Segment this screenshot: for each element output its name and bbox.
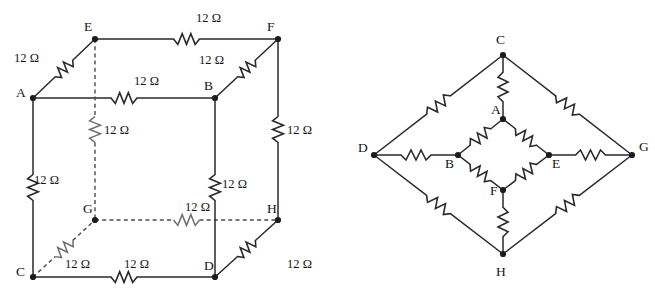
node-label-G: G bbox=[83, 201, 93, 216]
resistor-symbol bbox=[174, 215, 200, 226]
node-label-A: A bbox=[491, 102, 501, 117]
edge-label-G-H: 12 Ω bbox=[185, 200, 210, 214]
node-dot-B bbox=[455, 152, 461, 158]
resistor-symbol bbox=[210, 175, 221, 201]
circuit-figure: 12 Ω12 Ω12 Ω12 Ω12 Ω12 Ω12 Ω12 Ω12 Ω12 Ω… bbox=[0, 0, 655, 297]
node-label-B: B bbox=[204, 78, 213, 93]
wire-segment bbox=[33, 257, 55, 277]
wire-segment bbox=[450, 214, 503, 254]
resistor-symbol bbox=[470, 128, 491, 146]
node-dot-C bbox=[500, 52, 506, 58]
node-dot-F bbox=[500, 187, 506, 193]
node-label-F: F bbox=[490, 183, 498, 198]
resistor-symbol bbox=[111, 93, 137, 104]
node-dot-F bbox=[275, 36, 281, 42]
edge-G-H: 12 Ω bbox=[95, 200, 278, 225]
edge-C-D bbox=[374, 55, 503, 155]
resistor-symbol bbox=[498, 72, 508, 101]
edge-A-B: 12 Ω bbox=[33, 74, 215, 103]
node-label-A: A bbox=[16, 85, 26, 100]
resistor-symbol bbox=[515, 129, 536, 147]
node-label-B: B bbox=[445, 156, 454, 171]
edge-label-C-D: 12 Ω bbox=[124, 257, 149, 271]
node-dot-G bbox=[629, 152, 635, 158]
edge-G-H bbox=[503, 155, 632, 254]
wire-segment bbox=[255, 39, 278, 60]
resistor-symbol bbox=[470, 164, 491, 181]
edge-C-G: 12 Ω bbox=[33, 220, 95, 277]
resistor-symbol bbox=[55, 240, 73, 257]
wire-segment bbox=[503, 214, 556, 254]
node-label-C: C bbox=[496, 32, 505, 47]
node-label-G: G bbox=[639, 139, 649, 154]
wire-segment bbox=[215, 77, 238, 98]
edge-A-C: 12 Ω bbox=[28, 98, 59, 277]
node-dot-A bbox=[30, 95, 36, 101]
edge-A-B bbox=[458, 119, 503, 155]
wire-segment bbox=[579, 155, 632, 195]
wire-segment bbox=[450, 55, 503, 96]
resistor-symbol bbox=[515, 163, 536, 180]
node-H: H bbox=[496, 251, 506, 279]
wire-segment bbox=[33, 77, 55, 98]
wire-segment bbox=[374, 114, 427, 155]
node-dot-H bbox=[500, 251, 506, 257]
edge-H-F bbox=[498, 190, 508, 254]
node-dot-C bbox=[30, 274, 36, 280]
resistor-symbol bbox=[427, 195, 451, 214]
resistor-symbol bbox=[576, 150, 606, 160]
node-label-H: H bbox=[496, 264, 506, 279]
edge-E-F bbox=[503, 155, 549, 190]
node-dot-E bbox=[92, 36, 98, 42]
resistor-symbol bbox=[238, 60, 256, 77]
node-D: D bbox=[358, 140, 377, 158]
wire-segment bbox=[215, 257, 238, 277]
node-label-D: D bbox=[358, 140, 368, 155]
edge-label-E-F: 12 Ω bbox=[196, 11, 221, 25]
resistor-symbol bbox=[273, 117, 284, 143]
node-label-E: E bbox=[84, 19, 92, 34]
edge-label-A-E: 12 Ω bbox=[14, 51, 39, 65]
edge-label-B-F: 12 Ω bbox=[199, 53, 224, 67]
planar-equivalent-diagram: CDGHABEF bbox=[358, 32, 649, 279]
resistor-symbol bbox=[498, 207, 508, 236]
node-dot-H bbox=[275, 217, 281, 223]
wire-segment bbox=[73, 39, 95, 60]
edge-C-D: 12 Ω bbox=[33, 257, 215, 282]
node-label-H: H bbox=[267, 201, 277, 216]
edge-A-E: 12 Ω bbox=[14, 39, 95, 98]
resistor-symbol bbox=[401, 150, 431, 160]
edge-label-A-B: 12 Ω bbox=[134, 74, 159, 88]
resistor-symbol bbox=[238, 240, 256, 257]
node-dot-A bbox=[500, 116, 506, 122]
wire-segment bbox=[255, 220, 278, 240]
resistor-symbol bbox=[111, 272, 137, 283]
node-label-C: C bbox=[16, 264, 25, 279]
edge-E-F: 12 Ω bbox=[95, 11, 278, 44]
wire-segment bbox=[374, 155, 427, 195]
edge-D-H: 12 Ω bbox=[215, 220, 312, 277]
resistor-symbol bbox=[55, 60, 73, 77]
edge-E-G: 12 Ω bbox=[90, 39, 129, 220]
node-dot-G bbox=[92, 217, 98, 223]
resistor-symbol bbox=[556, 96, 580, 115]
resistor-symbol bbox=[90, 117, 101, 143]
edge-label-A-C: 12 Ω bbox=[34, 173, 59, 187]
edge-A-E bbox=[503, 119, 549, 155]
edge-label-B-D: 12 Ω bbox=[222, 177, 247, 191]
node-C: C bbox=[496, 32, 506, 58]
edge-label-C-G: 12 Ω bbox=[65, 257, 90, 271]
node-G: G bbox=[83, 201, 98, 223]
edge-G-E bbox=[549, 150, 632, 160]
node-G: G bbox=[629, 139, 649, 158]
node-dot-D bbox=[212, 274, 218, 280]
node-E: E bbox=[84, 19, 98, 42]
resistor-symbol bbox=[556, 194, 580, 213]
edge-label-F-H: 12 Ω bbox=[287, 123, 312, 137]
node-label-F: F bbox=[267, 19, 275, 34]
edge-label-D-H: 12 Ω bbox=[287, 257, 312, 271]
resistor-symbol bbox=[174, 34, 200, 45]
node-A: A bbox=[491, 102, 506, 122]
wire-segment bbox=[579, 114, 632, 155]
cube-network-diagram: 12 Ω12 Ω12 Ω12 Ω12 Ω12 Ω12 Ω12 Ω12 Ω12 Ω… bbox=[14, 11, 312, 282]
